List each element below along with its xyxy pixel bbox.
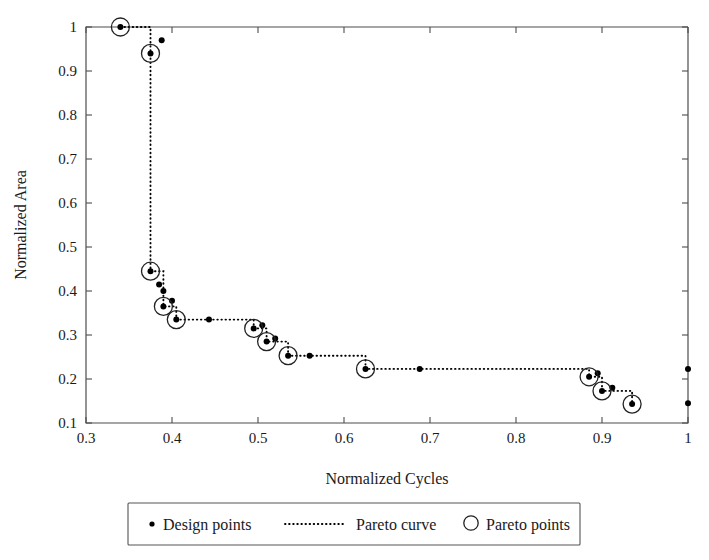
pareto-curve-group: [120, 27, 632, 404]
y-tick-label: 0.8: [58, 107, 77, 123]
y-tick-label: 0.7: [58, 151, 77, 167]
design-point: [173, 317, 179, 323]
legend-design-points-marker: [149, 521, 154, 526]
x-tick-label: 0.6: [335, 430, 354, 446]
legend-design-points-label: Design points: [163, 516, 251, 534]
design-point: [156, 281, 162, 287]
y-tick-label: 0.1: [58, 415, 77, 431]
y-tick-label: 0.3: [58, 327, 77, 343]
design-point: [264, 339, 270, 345]
design-point: [148, 50, 154, 56]
plot-frame: [86, 27, 688, 423]
design-point: [285, 353, 291, 359]
design-point: [586, 374, 592, 380]
y-tick-label: 1: [70, 19, 78, 35]
pareto-points-group: [111, 18, 641, 413]
design-point: [629, 401, 635, 407]
design-point: [251, 325, 257, 331]
y-tick-label: 0.5: [58, 239, 77, 255]
x-tick-label: 1: [684, 430, 692, 446]
design-point: [159, 37, 165, 43]
y-tick-label: 0.4: [58, 283, 77, 299]
x-tick-label: 0.8: [507, 430, 526, 446]
legend: Design points Pareto curve Pareto points: [128, 503, 580, 545]
design-point: [363, 366, 369, 372]
design-point: [599, 388, 605, 394]
x-tick-label: 0.4: [163, 430, 182, 446]
x-tick-label: 0.7: [421, 430, 440, 446]
design-point: [206, 317, 212, 323]
design-points-group: [117, 24, 691, 407]
y-tick-label: 0.9: [58, 63, 77, 79]
axis-frame: [86, 27, 688, 423]
y-tick-label: 0.2: [58, 371, 77, 387]
design-point: [307, 353, 313, 359]
x-axis-label: Normalized Cycles: [325, 470, 448, 488]
design-point: [685, 366, 691, 372]
x-tick-label: 0.9: [593, 430, 612, 446]
chart-root: 0.30.40.50.60.70.80.91 0.10.20.30.40.50.…: [0, 0, 709, 560]
legend-pareto-curve-label: Pareto curve: [356, 516, 436, 533]
y-tick-label: 0.6: [58, 195, 77, 211]
design-point: [685, 400, 691, 406]
x-tick-label: 0.5: [249, 430, 268, 446]
y-axis-label: Normalized Area: [12, 170, 29, 280]
design-point: [417, 366, 423, 372]
design-point: [160, 303, 166, 309]
legend-pareto-points-label: Pareto points: [486, 516, 570, 534]
design-point: [160, 288, 166, 294]
x-tick-label: 0.3: [77, 430, 96, 446]
x-axis-ticks: 0.30.40.50.60.70.80.91: [77, 27, 692, 446]
design-point: [148, 268, 154, 274]
pareto-curve-path: [120, 27, 632, 404]
design-point: [117, 24, 123, 30]
pareto-scatter-chart: 0.30.40.50.60.70.80.91 0.10.20.30.40.50.…: [0, 0, 709, 560]
